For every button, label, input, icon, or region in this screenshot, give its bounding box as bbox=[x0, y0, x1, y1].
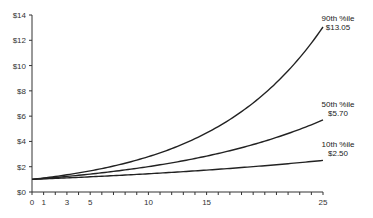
series-end-value-label: $5.70 bbox=[328, 109, 349, 118]
y-tick-label: $4 bbox=[17, 137, 26, 146]
y-tick-label: $6 bbox=[17, 112, 26, 121]
series-labels: 90th %ile$13.0550th %ile$5.7010th %ile$2… bbox=[322, 14, 355, 158]
series-lines bbox=[32, 27, 323, 179]
series-line-90th-ile bbox=[32, 27, 323, 179]
series-name-label: 10th %ile bbox=[322, 140, 355, 149]
x-tick-label: 3 bbox=[65, 198, 70, 207]
series-name-label: 50th %ile bbox=[322, 100, 355, 109]
y-tick-label: $2 bbox=[17, 163, 26, 172]
x-tick-label: 5 bbox=[88, 198, 93, 207]
series-line-50th-ile bbox=[32, 120, 323, 179]
y-tick-label: $8 bbox=[17, 87, 26, 96]
series-end-value-label: $13.05 bbox=[326, 23, 351, 32]
x-tick-label: 1 bbox=[41, 198, 46, 207]
x-tick-label: 10 bbox=[144, 198, 153, 207]
x-tick-label: 15 bbox=[202, 198, 211, 207]
x-tick-label: 25 bbox=[319, 198, 328, 207]
series-line-10th-ile bbox=[32, 160, 323, 179]
series-end-value-label: $2.50 bbox=[328, 149, 349, 158]
y-tick-label: $0 bbox=[17, 188, 26, 197]
series-name-label: 90th %ile bbox=[322, 14, 355, 23]
y-tick-label: $10 bbox=[13, 62, 27, 71]
x-tick-label: 0 bbox=[30, 198, 35, 207]
percentile-growth-chart: $0$2$4$6$8$10$12$140135101525 90th %ile$… bbox=[0, 0, 373, 218]
y-tick-label: $12 bbox=[13, 36, 27, 45]
y-tick-label: $14 bbox=[13, 11, 27, 20]
